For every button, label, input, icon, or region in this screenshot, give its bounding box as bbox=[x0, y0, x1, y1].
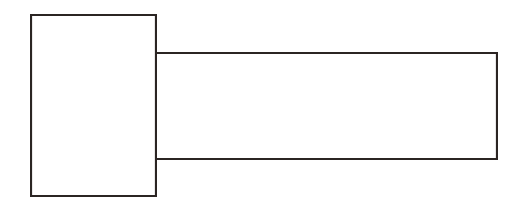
bolt-outline-svg bbox=[0, 0, 514, 208]
head-outline bbox=[31, 15, 156, 196]
line-drawing-canvas: Two-dimensional orthographic outline of … bbox=[0, 0, 514, 208]
shank-body-fill bbox=[157, 53, 497, 159]
